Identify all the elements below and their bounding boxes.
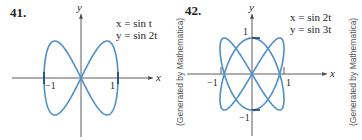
equation-x: x = sin 2t bbox=[290, 11, 331, 23]
tick-label-y-neg: −1 bbox=[239, 112, 250, 123]
tick-label-x-neg: −1 bbox=[207, 77, 218, 88]
exercise-number: 42. bbox=[185, 3, 201, 18]
graph-41: 41. x y −1 1 x = sin t y = sin 2t (Gener… bbox=[10, 1, 185, 137]
y-axis-label: y bbox=[248, 1, 254, 13]
tick-label-y-pos: 1 bbox=[243, 26, 248, 37]
graph-42: 42. x y −1 1 1 −1 x = sin 2t y = sin 3t … bbox=[185, 1, 358, 136]
tick-label-x-pos: 1 bbox=[286, 77, 291, 88]
tick-label-x-neg: −1 bbox=[45, 80, 56, 91]
x-axis-label: x bbox=[155, 71, 161, 83]
exercise-number: 41. bbox=[10, 5, 26, 20]
equation-y: y = sin 2t bbox=[116, 29, 157, 41]
credit-label: (Generated by Mathematica) bbox=[348, 18, 358, 126]
y-axis-label: y bbox=[76, 1, 82, 13]
tick-label-x-pos: 1 bbox=[110, 80, 115, 91]
equation-y: y = sin 3t bbox=[290, 23, 331, 35]
x-axis-label: x bbox=[329, 67, 335, 79]
credit-label: (Generated by Mathematica) bbox=[175, 18, 185, 126]
equation-x: x = sin t bbox=[116, 17, 152, 29]
figure-canvas: 41. x y −1 1 x = sin t y = sin 2t (Gener… bbox=[0, 0, 362, 140]
